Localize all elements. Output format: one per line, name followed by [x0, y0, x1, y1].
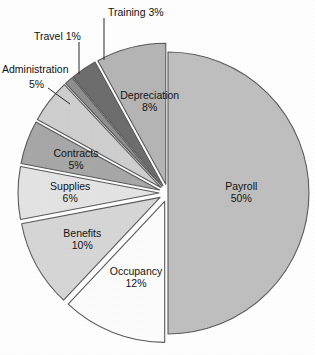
callout-label-administration: Administration [2, 63, 69, 75]
slice-label-percent: 6% [63, 192, 78, 204]
pie-chart: Payroll50%Occupancy12%Benefits10%Supplie… [0, 0, 315, 355]
slice-label-text: Contracts [54, 147, 99, 159]
slice-label-text: Benefits [63, 227, 101, 239]
slice-label-text: Supplies [50, 180, 90, 192]
slice-label-text: Occupancy [110, 265, 163, 277]
callout-label-training: Training 3% [108, 6, 164, 18]
slice-label-text: Payroll [225, 180, 257, 192]
pie-chart-canvas: Payroll50%Occupancy12%Benefits10%Supplie… [0, 0, 315, 355]
callout-label-administrationpct: 5% [29, 78, 44, 90]
slice-label-text: Depreciation [120, 89, 179, 101]
callout-label-travel: Travel 1% [34, 30, 81, 42]
slice-label-percent: 5% [68, 159, 83, 171]
slice-label-percent: 50% [231, 192, 252, 204]
slice-label-percent: 12% [125, 277, 146, 289]
slice-label-percent: 8% [142, 101, 157, 113]
slice-label-percent: 10% [72, 239, 93, 251]
